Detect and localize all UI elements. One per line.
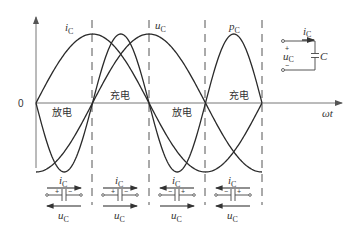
origin-label: 0 (18, 98, 24, 109)
inset-capacitor-label: C (320, 50, 328, 62)
state-current-label: iC (228, 174, 236, 189)
state-voltage-label: uC (227, 209, 238, 224)
plate-sign-right: + (237, 188, 241, 195)
inset-minus-sign: − (285, 62, 289, 69)
state-voltage-label: uC (114, 209, 125, 224)
capacitor-state-2: iC+−uC (102, 174, 139, 224)
inset-capacitor-circuit: iC + uC − C (282, 25, 329, 72)
state-current-label: iC (59, 174, 67, 189)
state-current-label: iC (172, 174, 180, 189)
state-voltage-label: uC (58, 209, 69, 224)
capacitor-state-3: iC−+uC (159, 174, 196, 224)
plate-sign-left: + (111, 188, 115, 195)
x-axis-label: ωt (322, 107, 334, 119)
state-voltage-label: uC (171, 209, 182, 224)
pc-curve-label: pC (228, 20, 240, 35)
plate-sign-left: + (55, 188, 59, 195)
plate-sign-right: − (68, 188, 72, 195)
inset-current-label: iC (303, 25, 311, 39)
plate-sign-right: − (124, 188, 128, 195)
state-current-label: iC (115, 174, 123, 189)
region-label-charge-1: 充电 (110, 89, 130, 101)
plate-sign-left: − (168, 188, 172, 195)
region-label-discharge-2: 放电 (172, 106, 192, 118)
capacitor-waveform-diagram: 0 ωt iC uC pC 放电 充电 放电 充电 iC + uC − C iC… (0, 0, 354, 238)
region-label-discharge-1: 放电 (52, 106, 72, 118)
region-label-charge-2: 充电 (229, 89, 249, 101)
capacitor-state-4: iC−+uC (215, 174, 252, 224)
uc-curve-label: uC (155, 19, 166, 34)
capacitor-state-1: iC+−uC (46, 174, 83, 224)
plate-sign-right: + (181, 188, 185, 195)
plate-sign-left: − (224, 188, 228, 195)
ic-curve-label: iC (65, 21, 73, 36)
